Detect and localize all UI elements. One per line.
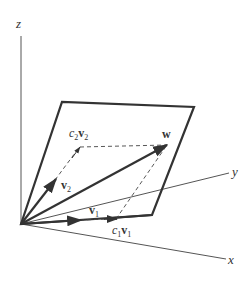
- v1-label-sub: 1: [95, 210, 99, 219]
- c2v2-arrow: [72, 147, 80, 158]
- v2-label: v2: [61, 178, 71, 194]
- c1v1-label: c1v1: [112, 223, 131, 239]
- linear-combination-diagram: z y x w v2 v1 c2v2 c1v1: [0, 0, 252, 281]
- y-axis-label: y: [230, 164, 238, 179]
- c1v1-vec-sub: 1: [127, 230, 131, 239]
- spanning-plane: [21, 102, 194, 224]
- dashed-c1v1-to-w: [116, 145, 167, 219]
- w-label-text: w: [162, 127, 171, 141]
- v2-vector: [21, 179, 56, 224]
- c2v2-label: c2v2: [69, 126, 88, 142]
- c2v2-vec-sub: 2: [84, 133, 88, 142]
- dashed-c2v2-to-w: [80, 145, 167, 147]
- x-axis-label: x: [227, 252, 234, 267]
- w-label: w: [162, 127, 171, 141]
- z-axis-label: z: [15, 16, 21, 31]
- v2-label-sub: 2: [67, 185, 71, 194]
